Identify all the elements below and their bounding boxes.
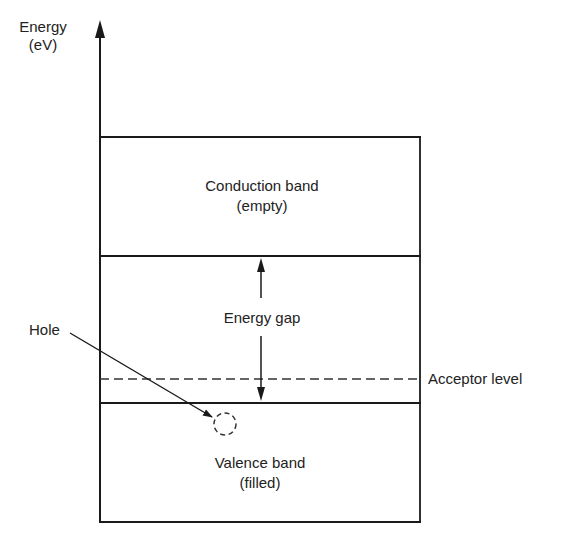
axis-arrowhead-icon	[95, 20, 105, 38]
energy-gap-label: Energy gap	[224, 309, 301, 327]
valence-band-label: Valence band (filled)	[215, 453, 306, 493]
conduction-band-label: Conduction band (empty)	[205, 176, 318, 216]
conduction-band-state: (empty)	[205, 196, 318, 216]
axis-label-line2: (eV)	[19, 36, 67, 54]
valence-band-title: Valence band	[215, 453, 306, 473]
acceptor-level-label: Acceptor level	[428, 370, 522, 388]
hole-circle-icon	[214, 413, 236, 435]
conduction-band-title: Conduction band	[205, 176, 318, 196]
hole-pointer-arrow	[70, 333, 212, 417]
energy-axis	[95, 20, 105, 150]
axis-label-line1: Energy	[19, 18, 67, 36]
energy-axis-label: Energy (eV)	[19, 18, 67, 54]
hole-label: Hole	[29, 321, 60, 339]
valence-band-state: (filled)	[215, 473, 306, 493]
